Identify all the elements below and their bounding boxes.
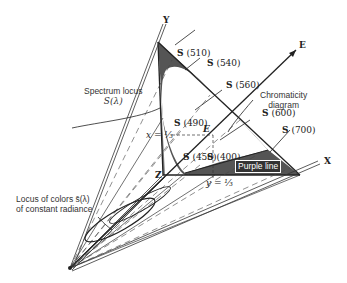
callout-text: diagram (260, 100, 307, 110)
purple-line-label: Purple line (235, 160, 281, 173)
constant-radiance-callout: Locus of colors s̄(λ) of constant radian… (16, 194, 93, 214)
point-label-540: S (540) (207, 58, 241, 68)
callout-text: Chromaticity (260, 90, 307, 100)
point-label-700: S (700) (282, 125, 316, 135)
e-axis-label: E (299, 40, 306, 50)
point-label-490: S (490) (174, 118, 208, 128)
y-axis-label: Y (163, 15, 169, 25)
point-label-560: S (560) (226, 80, 260, 90)
x-axis-label: X (324, 156, 331, 166)
y-equals-third-label: y = ⅓ (206, 178, 233, 188)
chromaticity-diagram-callout: Chromaticity diagram (260, 90, 307, 110)
chromaticity-diagram: Y X Z E E S (510) S (540) S (560) S (490… (0, 0, 347, 283)
callout-text: of constant radiance (16, 204, 93, 214)
spectrum-locus-callout: Spectrum locus S(λ) (84, 86, 143, 106)
x-equals-third-label: x = ⅓ (146, 130, 173, 140)
callout-text: S(λ) (84, 96, 143, 106)
point-label-510: S (510) (177, 48, 211, 58)
callout-text: Spectrum locus (84, 86, 143, 96)
z-axis-label: Z (155, 170, 162, 180)
callout-text: Locus of colors s̄(λ) (16, 194, 93, 204)
diagram-drawing (0, 0, 347, 283)
